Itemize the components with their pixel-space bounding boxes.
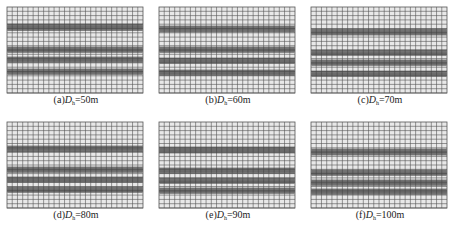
mesh-grid (158, 121, 296, 209)
panel-d: (d)Dh=80m (0, 115, 152, 230)
panel-a: (a)Dh=50m (0, 0, 152, 115)
caption: (b)Dh=60m (152, 94, 304, 109)
caption: (e)Dh=90m (152, 209, 304, 224)
caption: (d)Dh=80m (0, 209, 152, 224)
caption: (f)Dh=100m (304, 209, 456, 224)
mesh-grid (310, 121, 448, 209)
mesh-grid (6, 121, 144, 209)
panel-f: (f)Dh=100m (304, 115, 456, 230)
panel-c: (c)Dh=70m (304, 0, 456, 115)
mesh-grid (158, 6, 296, 94)
mesh-grid (310, 6, 448, 94)
mesh-grid (6, 6, 144, 94)
panel-e: (e)Dh=90m (152, 115, 304, 230)
caption: (c)Dh=70m (304, 94, 456, 109)
panel-b: (b)Dh=60m (152, 0, 304, 115)
caption: (a)Dh=50m (0, 94, 152, 109)
